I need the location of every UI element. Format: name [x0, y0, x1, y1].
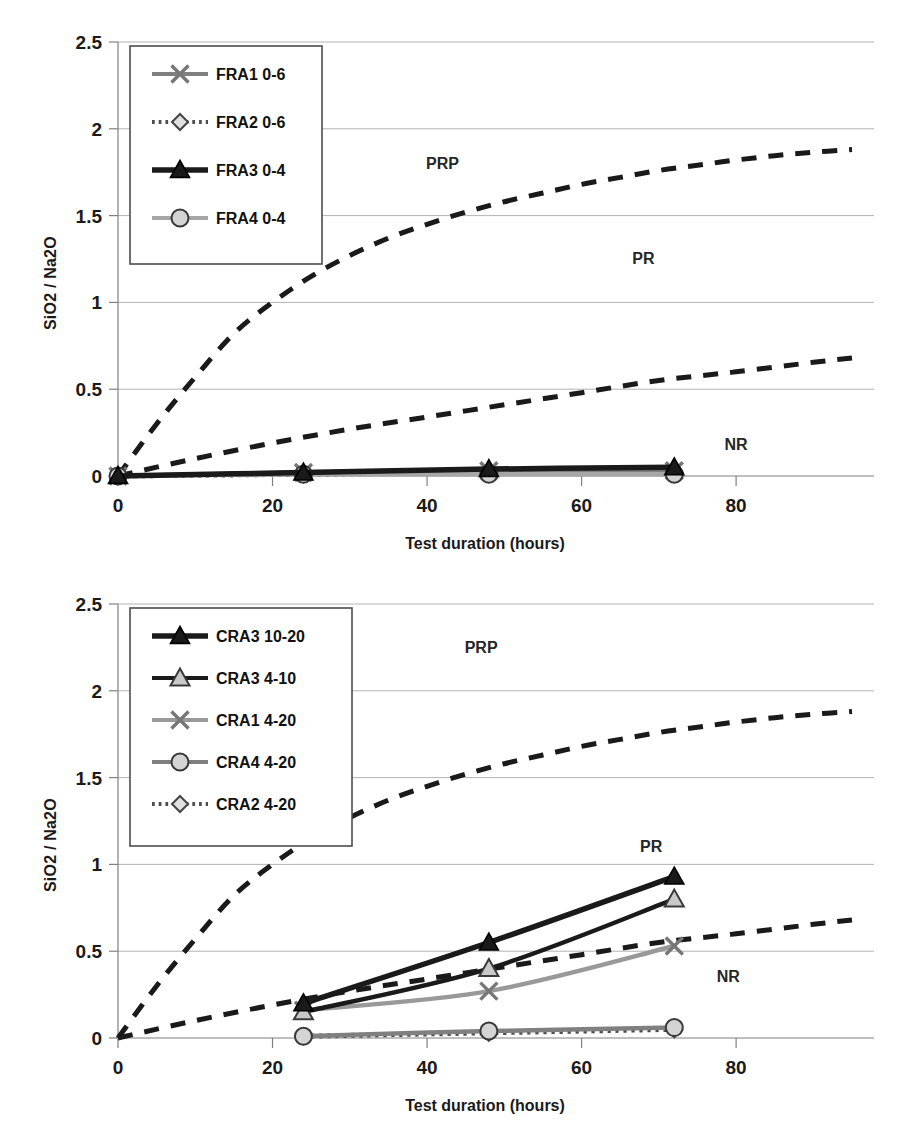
chart-panel-top: 00.511.522.5020406080PRPPRNRFRA1 0-6FRA2…	[0, 0, 909, 565]
legend-label: FRA3 0-4	[216, 162, 285, 179]
y-tick-label: 2	[91, 681, 102, 702]
legend-label: CRA1 4-20	[216, 712, 296, 729]
x-tick-label: 60	[571, 495, 592, 516]
y-tick-label: 2.5	[76, 32, 103, 53]
y-tick-label: 2	[91, 119, 102, 140]
region-label: NR	[717, 968, 741, 985]
legend-circle-marker	[172, 210, 189, 227]
figure-page: 00.511.522.5020406080PRPPRNRFRA1 0-6FRA2…	[0, 0, 909, 1127]
y-tick-label: 0.5	[76, 941, 103, 962]
y-tick-label: 1	[91, 292, 102, 313]
region-label: PRP	[465, 639, 498, 656]
x-tick-label: 0	[113, 495, 124, 516]
data-series	[109, 458, 684, 484]
x-axis-label-bottom: Test duration (hours)	[118, 1097, 852, 1115]
y-tick-label: 1.5	[76, 768, 103, 789]
legend-label: CRA3 10-20	[216, 628, 305, 645]
data-series	[294, 890, 684, 1020]
legend-item[interactable]: CRA4 4-20	[152, 754, 296, 772]
x-tick-label: 80	[726, 495, 747, 516]
x-tick-label: 20	[262, 495, 283, 516]
x-tick-label: 20	[262, 1057, 283, 1078]
y-tick-label: 0	[91, 1028, 102, 1049]
chart-panel-bottom: 00.511.522.5020406080PRPPRNRCRA3 10-20CR…	[0, 562, 909, 1127]
legend-item[interactable]: FRA1 0-6	[152, 66, 285, 84]
legend-label: CRA2 4-20	[216, 796, 296, 813]
y-axis-label-bottom: SiO2 / Na2O	[42, 798, 60, 892]
y-tick-label: 0	[91, 466, 102, 487]
chart-canvas-bottom: 00.511.522.5020406080PRPPRNRCRA3 10-20CR…	[0, 562, 909, 1127]
legend-label: CRA4 4-20	[216, 754, 296, 771]
x-tick-label: 40	[416, 495, 437, 516]
legend-label: FRA1 0-6	[216, 66, 285, 83]
y-tick-label: 1	[91, 854, 102, 875]
region-label: NR	[725, 436, 749, 453]
legend-label: CRA3 4-10	[216, 670, 296, 687]
legend: FRA1 0-6FRA2 0-6FRA3 0-4FRA4 0-4	[130, 46, 322, 264]
x-tick-label: 80	[726, 1057, 747, 1078]
y-tick-label: 2.5	[76, 594, 103, 615]
y-tick-label: 0.5	[76, 379, 103, 400]
legend-circle-marker	[172, 754, 189, 771]
x-tick-label: 40	[416, 1057, 437, 1078]
boundary-curve	[118, 358, 852, 476]
series-line	[303, 899, 674, 1012]
legend-item[interactable]: CRA1 4-20	[152, 712, 296, 730]
x-axis-label-top: Test duration (hours)	[118, 535, 852, 553]
boundary-curve	[118, 920, 852, 1038]
legend-label: FRA4 0-4	[216, 210, 285, 227]
chart-canvas-top: 00.511.522.5020406080PRPPRNRFRA1 0-6FRA2…	[0, 0, 909, 565]
region-label: PRP	[426, 155, 459, 172]
x-tick-label: 0	[113, 1057, 124, 1078]
region-label: PR	[640, 838, 663, 855]
x-tick-label: 60	[571, 1057, 592, 1078]
y-axis-label-top: SiO2 / Na2O	[42, 236, 60, 330]
legend: CRA3 10-20CRA3 4-10CRA1 4-20CRA4 4-20CRA…	[130, 608, 352, 846]
y-tick-label: 1.5	[76, 206, 103, 227]
legend-label: FRA2 0-6	[216, 114, 285, 131]
region-label: PR	[632, 250, 655, 267]
